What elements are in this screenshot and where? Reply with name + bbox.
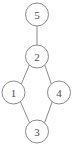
graph-node-4: 4 [48,81,71,104]
graph-node-label-2: 2 [34,51,40,63]
graph-diagram: 52143 [0,0,73,148]
graph-node-2: 2 [26,45,49,68]
graph-nodes-group: 52143 [2,3,71,143]
graph-canvas: 52143 [0,0,73,148]
graph-edges-group [20,26,52,123]
graph-node-label-5: 5 [34,9,40,21]
graph-node-label-4: 4 [56,87,62,99]
graph-node-label-3: 3 [34,126,40,138]
graph-node-5: 5 [26,3,49,26]
graph-node-3: 3 [26,120,49,143]
graph-edge-1-3 [20,102,29,124]
graph-edge-2-1 [21,65,29,84]
graph-node-1: 1 [2,81,25,104]
graph-edge-2-4 [45,65,52,84]
graph-edge-4-3 [45,102,53,124]
graph-node-label-1: 1 [11,87,17,99]
